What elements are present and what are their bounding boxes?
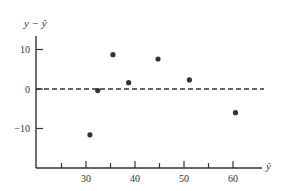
y-tick-label: 10 bbox=[20, 44, 30, 55]
y-tick-label: 0 bbox=[25, 84, 30, 95]
data-point bbox=[110, 52, 115, 57]
axes: 100−1030405060 bbox=[14, 36, 262, 184]
x-tick-label: 30 bbox=[81, 173, 91, 184]
data-point bbox=[95, 88, 100, 93]
data-point bbox=[233, 110, 238, 115]
data-point bbox=[187, 77, 192, 82]
y-tick-label: −10 bbox=[14, 123, 30, 134]
y-axis-title: y − ŷ bbox=[23, 17, 47, 29]
x-tick-label: 50 bbox=[179, 173, 189, 184]
data-point bbox=[87, 132, 92, 137]
residual-plot: 100−1030405060 y − ŷ ŷ bbox=[0, 0, 286, 191]
data-point bbox=[155, 56, 160, 61]
x-tick-label: 40 bbox=[130, 173, 140, 184]
data-point bbox=[126, 80, 131, 85]
x-axis-title: ŷ bbox=[265, 160, 271, 172]
data-points bbox=[87, 52, 238, 137]
x-tick-label: 60 bbox=[228, 173, 238, 184]
